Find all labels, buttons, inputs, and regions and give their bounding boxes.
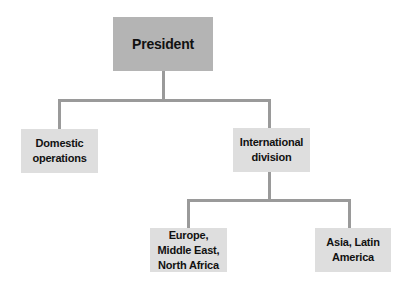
node-international-division-label: International division bbox=[237, 135, 306, 165]
node-domestic-operations-label: Domestic operations bbox=[32, 136, 86, 166]
connector-level2-horizontal bbox=[187, 199, 351, 202]
connector-president-down bbox=[162, 71, 165, 101]
connector-to-international bbox=[268, 99, 271, 129]
node-president: President bbox=[113, 17, 213, 71]
connector-to-asia bbox=[348, 199, 351, 228]
node-president-label: President bbox=[132, 37, 194, 52]
connector-to-europe bbox=[187, 199, 190, 228]
node-europe-middle-east-north-africa: Europe, Middle East, North Africa bbox=[150, 228, 227, 272]
node-asia-label: Asia, Latin America bbox=[325, 235, 381, 265]
connector-level1-horizontal bbox=[58, 99, 271, 102]
connector-international-down bbox=[268, 172, 271, 202]
node-asia-latin-america: Asia, Latin America bbox=[315, 228, 391, 272]
connector-to-domestic bbox=[58, 99, 61, 129]
node-domestic-operations: Domestic operations bbox=[21, 129, 98, 173]
node-europe-label: Europe, Middle East, North Africa bbox=[152, 228, 225, 273]
node-international-division: International division bbox=[233, 128, 310, 172]
